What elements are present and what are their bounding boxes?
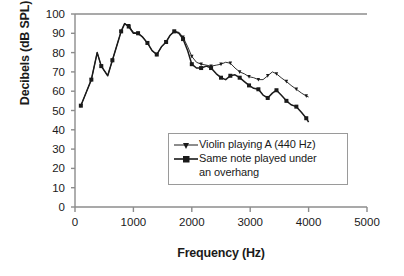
chart-figure: Decibels (dB SPL) Frequency (Hz) 0102030… — [0, 0, 404, 276]
triangle-down-marker-icon — [173, 138, 199, 151]
legend-item-overhang: Same note played under — [173, 152, 344, 165]
legend-label-overhang-line2: an overhang — [173, 166, 344, 179]
chart-legend: Violin playing A (440 Hz) Same note play… — [168, 133, 348, 185]
data-series-group — [79, 24, 309, 122]
legend-label-violin: Violin playing A (440 Hz) — [199, 138, 316, 151]
legend-item-violin: Violin playing A (440 Hz) — [173, 138, 344, 151]
square-marker-icon — [173, 152, 199, 165]
legend-label-overhang: Same note played under — [199, 152, 317, 165]
